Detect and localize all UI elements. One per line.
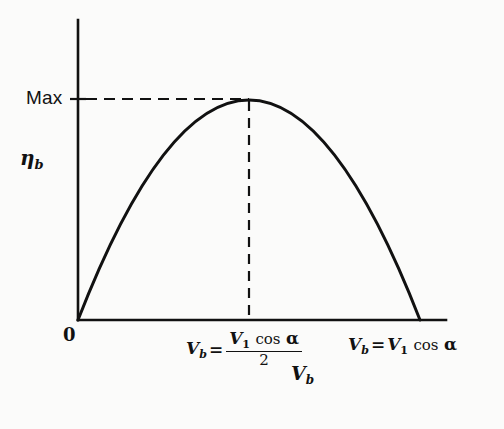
y-axis-title: ηb — [20, 148, 44, 171]
x-axis-symbol: V — [291, 362, 306, 384]
eta-subscript: b — [35, 157, 44, 172]
peak-equals-sign: = — [207, 341, 225, 358]
peak-num-function: cos — [255, 330, 280, 348]
end-rhs-function: cos — [413, 336, 438, 354]
end-rhs-subscript: 1 — [400, 344, 408, 357]
peak-lhs-symbol: V — [186, 338, 199, 358]
x-axis-title: Vb — [291, 364, 314, 386]
origin-label: 0 — [63, 326, 76, 344]
end-equals-sign: = — [369, 334, 387, 354]
x-axis-subscript: b — [306, 373, 314, 387]
peak-fraction-numerator: V1 cos α — [226, 330, 302, 352]
max-tick-label: Max — [26, 88, 63, 107]
peak-num-subscript: 1 — [242, 338, 250, 351]
peak-lhs-subscript: b — [199, 347, 207, 360]
end-lhs-subscript: b — [361, 344, 369, 357]
eta-symbol: η — [20, 146, 35, 170]
end-lhs-symbol: V — [348, 334, 361, 354]
peak-num-angle: α — [286, 328, 299, 348]
peak-fraction-denominator: 2 — [259, 352, 269, 369]
peak-x-label: Vb = V1 cos α 2 — [186, 330, 302, 369]
blade-efficiency-figure: Max ηb 0 Vb = V1 cos α 2 Vb=V1 cos α Vb — [0, 0, 504, 429]
peak-label-lhs: Vb — [186, 340, 207, 360]
peak-num-symbol: V — [229, 328, 242, 348]
end-rhs-angle: α — [444, 334, 457, 354]
end-x-label: Vb=V1 cos α — [348, 336, 457, 356]
end-rhs-symbol: V — [387, 334, 400, 354]
